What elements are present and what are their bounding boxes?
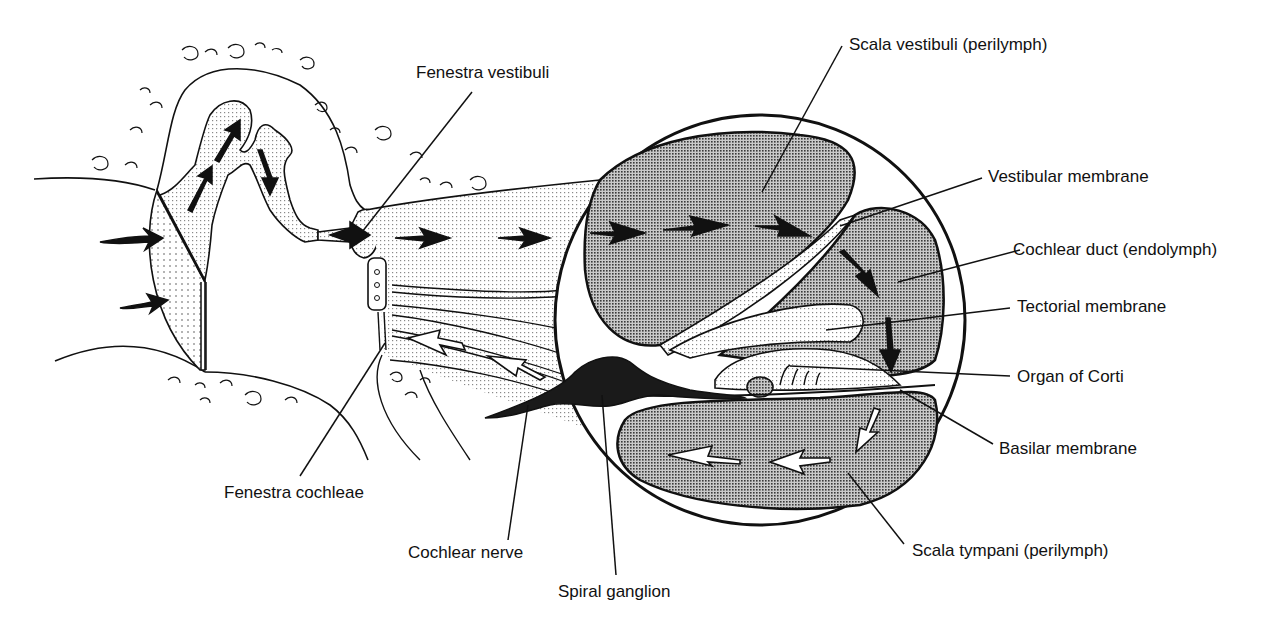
cochlea-diagram: Fenestra vestibuli Scala vestibuli (peri… [0, 0, 1288, 627]
label-basilar-membrane: Basilar membrane [999, 440, 1137, 457]
leader-fenestra-cochleae [300, 343, 385, 476]
round-window-frame [368, 258, 386, 310]
label-fenestra-vestibuli: Fenestra vestibuli [416, 64, 549, 81]
label-vestibular-membrane: Vestibular membrane [988, 168, 1149, 185]
ear-canal-upper [34, 178, 155, 190]
middle-ear-floor [205, 372, 368, 460]
label-tectorial-membrane: Tectorial membrane [1017, 298, 1166, 315]
label-spiral-ganglion: Spiral ganglion [558, 583, 670, 600]
label-fenestra-cochleae: Fenestra cochleae [224, 484, 364, 501]
label-scala-tympani: Scala tympani (perilymph) [912, 542, 1109, 559]
label-cochlear-nerve: Cochlear nerve [408, 544, 523, 561]
label-scala-vestibuli: Scala vestibuli (perilymph) [849, 36, 1047, 53]
label-cochlear-duct: Cochlear duct (endolymph) [1013, 241, 1217, 258]
leader-cochlear-nerve [508, 405, 528, 540]
scala-tympani [617, 392, 937, 509]
label-organ-of-corti: Organ of Corti [1017, 368, 1124, 385]
